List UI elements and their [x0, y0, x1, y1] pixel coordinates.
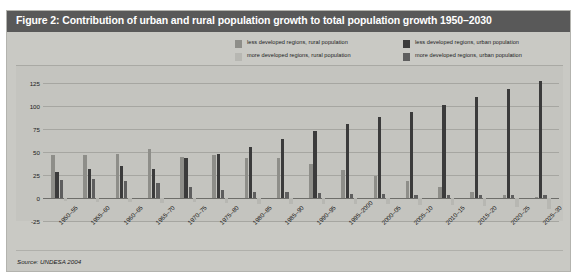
bar: [217, 154, 220, 198]
figure-title-bar: Figure 2: Contribution of urban and rura…: [7, 11, 570, 32]
bar: [346, 124, 349, 199]
bar: [124, 181, 127, 198]
bar: [51, 155, 54, 198]
bar: [451, 198, 454, 205]
y-axis-tick-label: -25: [31, 218, 40, 225]
bar: [341, 170, 344, 198]
bar: [257, 198, 260, 204]
bar-group: [527, 72, 559, 221]
bar: [277, 158, 280, 198]
bar: [83, 155, 86, 198]
bar: [249, 147, 252, 198]
bar: [60, 180, 63, 198]
bar-group: [398, 72, 430, 221]
bar-group: [430, 72, 462, 221]
bar: [193, 198, 196, 202]
bar: [309, 164, 312, 198]
bar: [350, 194, 353, 198]
bar: [475, 97, 478, 198]
bar: [55, 172, 58, 198]
y-axis-tick-label: 75: [33, 126, 40, 133]
bar-group: [237, 72, 269, 221]
bar: [382, 194, 385, 198]
bar-group: [43, 72, 75, 221]
bar: [285, 192, 288, 198]
legend-swatch-icon: [235, 40, 242, 48]
bar-group: [75, 72, 107, 221]
footer-divider: [16, 250, 563, 251]
legend-column-right: less developed regions, urban population…: [403, 38, 561, 64]
legend-item-label: less developed regions, rural population: [247, 39, 348, 45]
legend-item: more developed regions, rural population: [235, 51, 393, 64]
bar-group: [204, 72, 236, 221]
plot-canvas: -250255075100125: [43, 72, 559, 221]
bar: [96, 198, 99, 202]
x-axis: 1950–551955–601960–651965–701970–751975–…: [43, 221, 573, 263]
bar-group: [366, 72, 398, 221]
bar: [442, 105, 445, 198]
bar: [160, 198, 163, 203]
bar: [547, 198, 550, 209]
bar: [281, 139, 284, 198]
bar-group: [140, 72, 172, 221]
bar: [535, 197, 538, 198]
bar: [515, 198, 518, 207]
legend-swatch-icon: [235, 53, 242, 61]
plot-area: -250255075100125: [16, 65, 563, 221]
bar: [374, 176, 377, 198]
legend-item: less developed regions, urban population: [403, 38, 561, 51]
y-axis-tick-label: 100: [30, 103, 40, 110]
bar: [221, 190, 224, 198]
bar: [189, 187, 192, 198]
bar-group: [495, 72, 527, 221]
bar: [116, 154, 119, 198]
legend-item-label: more developed regions, urban population: [415, 52, 522, 58]
bar: [511, 195, 514, 198]
bar: [152, 169, 155, 198]
bar-group: [333, 72, 365, 221]
bar: [418, 198, 421, 205]
bar: [539, 81, 542, 198]
bar: [378, 117, 381, 198]
legend-item: less developed regions, rural population: [235, 38, 393, 51]
bar-group: [462, 72, 494, 221]
bar: [322, 198, 325, 204]
bar: [470, 192, 473, 198]
bar-group: [172, 72, 204, 221]
y-axis-tick-label: 125: [30, 80, 40, 87]
bar: [354, 198, 357, 204]
bar: [148, 149, 151, 198]
bar: [503, 195, 506, 198]
bar: [128, 198, 131, 202]
legend-item-label: more developed regions, rural population: [247, 52, 351, 58]
legend-swatch-icon: [403, 40, 410, 48]
bar: [120, 166, 123, 198]
bar: [438, 187, 441, 198]
bar: [92, 179, 95, 198]
y-axis-tick-label: 25: [33, 172, 40, 179]
bar-group: [301, 72, 333, 221]
legend-column-left: less developed regions, rural population…: [235, 38, 393, 64]
bar-group: [108, 72, 140, 221]
bar: [225, 198, 228, 203]
legend-item-label: less developed regions, urban population: [415, 39, 519, 45]
source-note: Source: UNDESA 2004: [17, 258, 81, 265]
legend-swatch-icon: [403, 53, 410, 61]
bar: [406, 181, 409, 198]
figure-title: Figure 2: Contribution of urban and rura…: [16, 14, 492, 26]
bar: [543, 195, 546, 198]
y-axis-tick-label: 50: [33, 149, 40, 156]
bar: [212, 155, 215, 198]
bar: [507, 89, 510, 198]
bar: [88, 169, 91, 198]
bar: [64, 198, 67, 201]
bar: [180, 157, 183, 198]
bar: [253, 192, 256, 198]
bar: [245, 158, 248, 198]
bar: [414, 195, 417, 198]
bar: [184, 158, 187, 198]
bar: [313, 131, 316, 198]
bar: [479, 195, 482, 198]
bar-group: [269, 72, 301, 221]
bar: [410, 112, 413, 198]
